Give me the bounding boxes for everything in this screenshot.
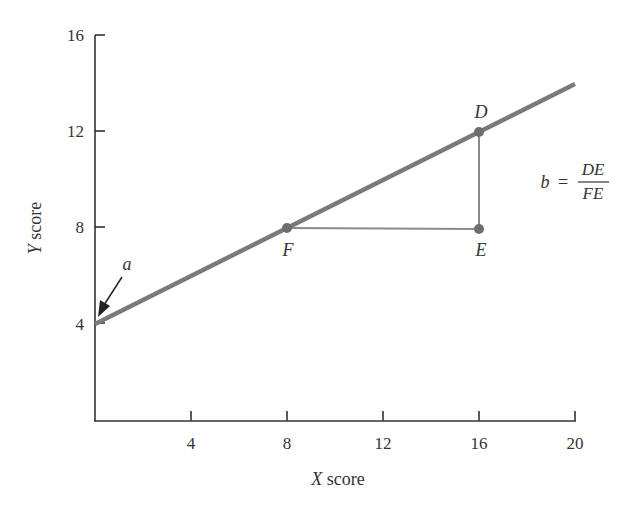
label-E: E	[475, 240, 487, 260]
x-axis-rest: score	[322, 469, 364, 489]
y-tick-label: 16	[67, 26, 84, 45]
slope-formula: b = DE FE	[541, 160, 610, 203]
x-axis-title: X score	[310, 469, 364, 489]
label-F: F	[282, 240, 295, 260]
x-tick-label: 8	[283, 434, 292, 453]
formula-eq: =	[558, 172, 568, 192]
leg-FE	[287, 228, 479, 229]
chart-canvas: 16 12 8 4 4 8 12 16 20 X score Y score D…	[0, 0, 617, 514]
x-tick-label: 16	[471, 434, 488, 453]
intercept-label-a: a	[123, 254, 132, 274]
point-E	[474, 224, 484, 234]
y-tick-label: 8	[76, 218, 85, 237]
label-D: D	[474, 102, 488, 122]
y-axis-title: Y score	[25, 202, 45, 255]
y-tick-label: 12	[67, 122, 84, 141]
point-D	[474, 127, 484, 137]
formula-denominator: FE	[582, 184, 604, 203]
regression-line	[95, 84, 575, 324]
x-tick-label: 12	[375, 434, 392, 453]
y-tick-labels: 16 12 8 4	[67, 26, 85, 334]
x-tick-labels: 4 8 12 16 20	[187, 434, 584, 453]
formula-numerator: DE	[581, 160, 605, 179]
x-tick-label: 4	[187, 434, 196, 453]
point-F	[282, 223, 292, 233]
y-tick-label: 4	[76, 315, 85, 334]
x-tick-label: 20	[567, 434, 584, 453]
y-axis-rest: score	[25, 202, 45, 244]
formula-lhs: b	[541, 172, 550, 192]
